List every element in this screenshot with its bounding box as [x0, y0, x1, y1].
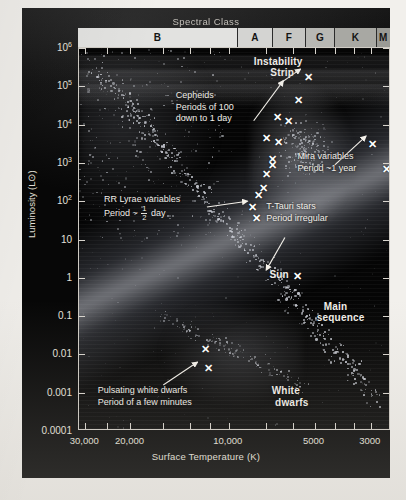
star-point: [318, 129, 319, 130]
star-point: [375, 391, 377, 393]
star-point: [171, 157, 172, 158]
star-point: [294, 159, 295, 160]
star-point: [295, 182, 297, 184]
star-point: [380, 117, 382, 119]
star-point: [167, 86, 169, 88]
star-point: [279, 374, 280, 375]
star-point: [88, 83, 89, 84]
star-point: [128, 119, 130, 121]
star-point: [240, 351, 241, 352]
annotation-instability-strip: InstabilityStrip: [254, 56, 303, 79]
star-point: [309, 143, 310, 144]
star-point: [172, 145, 173, 146]
star-point: [148, 167, 149, 168]
y-tick-mark: [79, 86, 85, 87]
star-point: [164, 157, 166, 159]
star-point: [155, 310, 156, 311]
star-point: [362, 67, 363, 68]
star-point: [97, 76, 99, 78]
star-point: [181, 244, 182, 245]
star-point: [212, 156, 214, 158]
star-point: [260, 266, 262, 268]
star-point: [337, 348, 338, 349]
star-point: [271, 375, 272, 376]
star-point: [82, 248, 83, 249]
y-tick-mark-right: [383, 240, 389, 241]
star-point: [192, 189, 194, 191]
star-point: [323, 349, 325, 351]
star-point: [106, 172, 108, 174]
star-point: [233, 356, 234, 357]
variable-star-x-marker: ✕: [382, 163, 390, 174]
star-point: [223, 222, 224, 223]
star-point: [325, 67, 326, 68]
star-point: [345, 353, 347, 355]
star-point: [101, 67, 103, 69]
star-point: [213, 209, 215, 211]
star-point: [192, 200, 194, 202]
star-point: [314, 135, 316, 137]
star-point: [353, 368, 355, 370]
star-point: [146, 237, 148, 239]
star-point: [171, 103, 172, 104]
star-point: [154, 140, 155, 141]
star-point: [163, 63, 165, 65]
star-point: [285, 298, 287, 300]
star-point: [204, 203, 205, 204]
star-point: [183, 57, 185, 59]
plot-area: ✕✕✕✕✕✕✕✕✕✕✕✕✕✕✕✕✕ InstabilityStripCephei…: [78, 47, 390, 430]
star-point: [371, 154, 372, 155]
star-point: [196, 247, 197, 248]
star-point: [258, 363, 259, 364]
star-point: [148, 168, 149, 169]
star-point: [152, 127, 153, 128]
star-point: [155, 134, 157, 136]
star-point: [313, 136, 314, 137]
star-point: [148, 179, 150, 181]
star-point: [189, 330, 190, 331]
y-tick-label: 0.001: [47, 386, 72, 397]
x-tick-mark-top: [130, 48, 131, 54]
star-point: [115, 88, 116, 89]
star-point: [259, 261, 260, 262]
star-point: [362, 194, 363, 195]
star-point: [331, 338, 332, 339]
spectral-class-g: G: [306, 28, 335, 47]
arrow-rr-lyrae: [207, 201, 248, 207]
star-point: [149, 81, 151, 83]
star-point: [231, 342, 233, 344]
star-point: [148, 133, 150, 135]
star-point: [164, 314, 166, 316]
star-point: [188, 184, 189, 185]
star-point: [164, 317, 166, 319]
star-point: [308, 135, 309, 136]
y-tick-mark-right: [383, 316, 389, 317]
star-point: [100, 82, 101, 83]
star-point: [101, 54, 102, 55]
star-point: [312, 136, 313, 137]
star-point: [107, 91, 109, 93]
spectral-class-title: Spectral Class: [22, 16, 390, 27]
star-point: [214, 235, 215, 236]
star-point: [331, 356, 332, 357]
star-point: [89, 214, 91, 216]
star-point: [285, 150, 286, 151]
star-point: [291, 161, 292, 162]
x-tick-mark-top: [315, 48, 316, 54]
star-point: [171, 172, 173, 174]
star-point: [284, 294, 286, 296]
star-point: [347, 355, 349, 357]
star-point: [259, 367, 261, 369]
star-point: [119, 142, 120, 143]
star-point: [218, 349, 220, 351]
star-point: [207, 224, 209, 226]
star-point: [203, 198, 205, 200]
star-point: [79, 169, 80, 170]
star-point: [340, 344, 342, 346]
star-point: [198, 188, 199, 189]
annotation-line: Periods of 100: [176, 102, 234, 114]
star-point: [260, 259, 262, 261]
star-point: [299, 83, 300, 84]
star-point: [305, 139, 307, 141]
star-point: [256, 254, 257, 255]
